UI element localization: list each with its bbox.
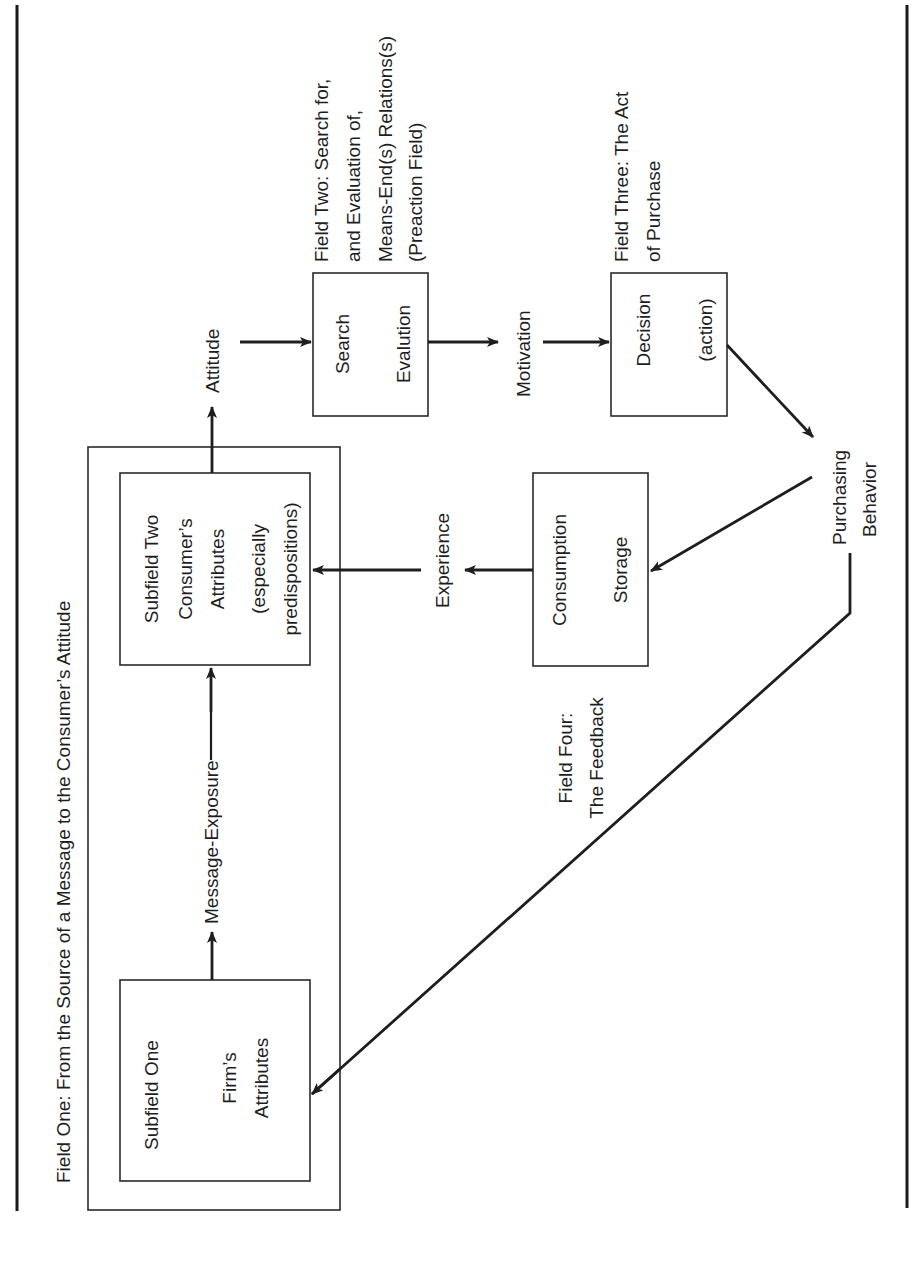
subfield-one-title: Subfield One (141, 1040, 162, 1150)
field-four-line: Field Four: (555, 713, 576, 804)
diagram-page: Field One: From the Source of a Message … (0, 0, 922, 1264)
search-evaluation-node: Search Evalution (313, 273, 428, 416)
arrow-feedback-to-firm (312, 1069, 340, 1094)
subfield-one-line: Attributes (251, 1038, 272, 1118)
field-three-label: Field Three: The Act of Purchase (611, 91, 664, 262)
search-line: Search (332, 314, 353, 374)
subfield-two-line: Attributes (207, 529, 228, 609)
purchasing-behavior-label: Purchasing Behavior (829, 450, 880, 545)
field-two-line: Field Two: Search for, (311, 79, 332, 262)
subfield-one-line: Firm’s (219, 1052, 240, 1103)
motivation-label: Motivation (513, 310, 534, 397)
field-two-line: Means-End(s) Relations(s) (375, 36, 396, 262)
consumption-storage-node: Consumption Storage (533, 473, 648, 666)
feedback-line-to-firm (312, 553, 850, 1094)
message-exposure-label: Message-Exposure (201, 760, 222, 924)
arrow-decision-to-purchasing (727, 345, 813, 437)
field-two-line: (Preaction Field) (405, 123, 426, 262)
field-one-label: Field One: From the Source of a Message … (53, 601, 74, 1183)
subfield-two-line: (especially (248, 524, 269, 614)
subfield-two-node: Subfield Two Consumer’s Attributes (espe… (120, 473, 310, 665)
subfield-two-title: Subfield Two (141, 515, 162, 623)
field-four-label: Field Four: The Feedback (555, 697, 607, 819)
action-line: (action) (695, 298, 716, 361)
field-two-line: and Evaluation of, (343, 110, 364, 262)
subfield-two-line: predispositions) (280, 502, 301, 635)
subfield-two-line: Consumer’s (175, 518, 196, 620)
field-four-line: The Feedback (586, 697, 607, 819)
attitude-label: Attitude (202, 329, 223, 393)
arrow-purchasing-to-consumption (651, 477, 812, 571)
subfield-one-node: Subfield One Firm’s Attributes (120, 980, 310, 1181)
purchasing-line: Purchasing (829, 450, 850, 545)
flow-diagram: Field One: From the Source of a Message … (0, 0, 922, 1264)
field-two-label: Field Two: Search for, and Evaluation of… (311, 36, 426, 262)
experience-label: Experience (432, 513, 453, 608)
decision-node: Decision (action) (611, 273, 727, 416)
storage-line: Storage (610, 537, 631, 604)
consumption-line: Consumption (549, 514, 570, 626)
evaluation-line: Evalution (393, 305, 414, 383)
decision-line: Decision (633, 294, 654, 367)
field-three-line: Field Three: The Act (611, 91, 632, 262)
behavior-line: Behavior (859, 461, 880, 537)
field-three-line: of Purchase (643, 161, 664, 262)
